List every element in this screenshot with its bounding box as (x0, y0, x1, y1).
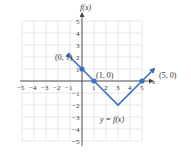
x-axis-title: x (151, 78, 156, 86)
y-tick-label: −2 (72, 102, 80, 110)
y-tick-label: 5 (76, 18, 80, 26)
x-tick-label: 3 (116, 84, 120, 92)
x-tick-labels: −5−4−3−2−112345 (17, 84, 144, 92)
y-tick-label: 2 (76, 54, 80, 62)
x-tick-label: 5 (140, 84, 144, 92)
data-point (79, 66, 84, 71)
x-tick-label: −4 (29, 84, 37, 92)
x-tick-label: −3 (41, 84, 49, 92)
x-tick-label: −2 (53, 84, 61, 92)
y-tick-label: −1 (72, 90, 80, 98)
y-tick-label: −4 (72, 126, 80, 134)
y-axis-title: f(x) (80, 3, 91, 12)
y-tick-labels: 54321−1−2−3−4−5 (72, 18, 80, 146)
function-label: y = f(x) (99, 115, 124, 124)
y-tick-label: −3 (72, 114, 80, 122)
y-tick-label: 4 (76, 30, 80, 38)
point-label-1-0: (1, 0) (96, 71, 114, 80)
point-label-5-0: (5, 0) (159, 71, 177, 80)
point-label-0-1: (0, 1) (55, 53, 73, 62)
data-point (139, 78, 144, 83)
x-tick-label: 1 (92, 84, 96, 92)
y-tick-label: 3 (76, 42, 80, 50)
function-graph: −5−4−3−2−112345 54321−1−2−3−4−5 f(x) x (… (0, 0, 191, 156)
x-tick-label: −5 (17, 84, 25, 92)
y-tick-label: −5 (72, 138, 80, 146)
